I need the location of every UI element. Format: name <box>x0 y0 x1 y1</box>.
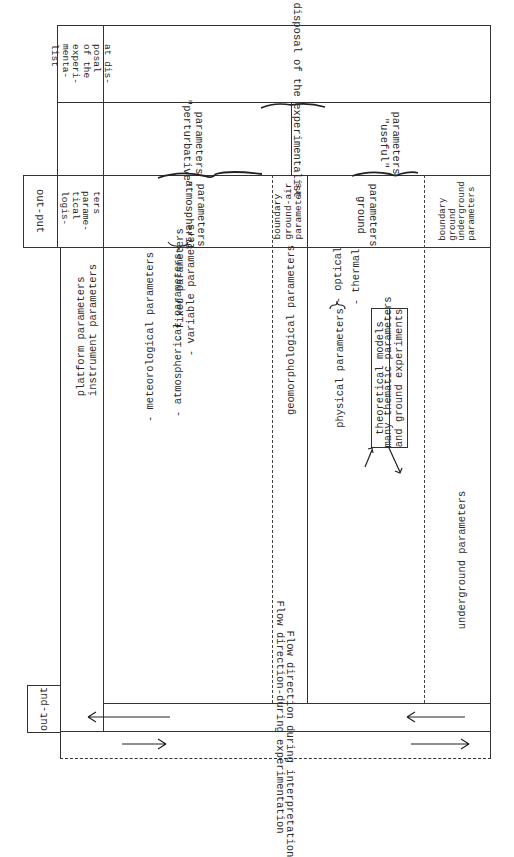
output-label-bottom: out-put <box>38 687 50 731</box>
boundary-air-right-divider <box>307 175 308 703</box>
arrow-right-icon-2 <box>409 737 473 751</box>
geomorphological-parameters-label: geomorphological parameters <box>285 245 297 415</box>
right-border <box>490 25 491 758</box>
row-divider-4 <box>103 703 491 704</box>
meteorological-parameters-label: - meteorological parameters <box>144 252 156 422</box>
variable-parameters-label: - variable parameters <box>185 224 197 356</box>
thermal-label: - thermal <box>350 249 362 306</box>
at-disposal-label: at dis- posal of the experi- menta- list <box>49 44 112 84</box>
ground-parameters-label: parameters ground <box>355 183 379 246</box>
arrow-left-icon <box>84 710 174 724</box>
arrows-box-icon <box>362 440 412 480</box>
flow-interpretation-label: Flow direction during interpretation <box>284 631 296 857</box>
platform-instrument-label: platform parameters instrument parameter… <box>75 264 99 396</box>
row-divider-3 <box>23 247 491 248</box>
boundary-ground-air-label: boundary ground-air parameters <box>273 182 305 239</box>
ground-experiments-label: and ground experiments <box>393 309 405 448</box>
boundary-ground-underground-label: boundary ground underground parameters <box>439 181 477 240</box>
output-label-top: out-put <box>34 189 46 233</box>
optical-label: - optical <box>332 247 344 304</box>
arrow-right-icon <box>120 737 170 751</box>
theoretical-models-label: theoretical models <box>374 321 386 434</box>
logistical-parameters-label: ters parame- tical logis- <box>59 191 101 231</box>
first-column-divider <box>103 25 104 731</box>
top-border <box>57 25 491 26</box>
theoretical-box-divider <box>389 308 390 448</box>
brace-center-icon <box>255 100 335 112</box>
arrow-left-icon-2 <box>403 710 468 724</box>
brace-ground-icon <box>350 168 430 180</box>
physical-parameters-label: physical parameters <box>334 308 346 428</box>
not-at-disposal-label: Not at disposal of the experimentalist <box>291 0 303 198</box>
useful-parameters-label: parameters "useful" <box>378 111 402 174</box>
underground-parameters-label: underground parameters <box>456 491 468 630</box>
boundary-underground-divider <box>424 175 425 703</box>
left-border-bottom <box>60 247 61 758</box>
boundary-air-left-divider <box>272 175 273 703</box>
brace-atmospheric-icon <box>150 168 270 180</box>
